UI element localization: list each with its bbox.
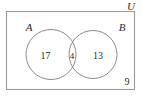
outside-sets-count: 9: [125, 76, 130, 87]
set-b-label: B: [119, 21, 126, 33]
set-a-only-count: 17: [41, 50, 51, 61]
universe-label: U: [127, 0, 136, 12]
intersection-count: 4: [70, 51, 75, 61]
set-b-only-count: 13: [93, 50, 103, 61]
set-a-label: A: [25, 21, 33, 33]
venn-diagram-figure: U A B 17 4 13 9: [0, 0, 142, 97]
